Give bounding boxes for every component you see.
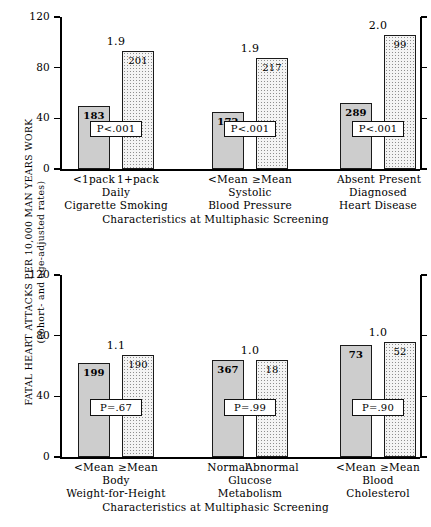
group-label-bottom-0: BodyWeight-for-Height — [41, 474, 191, 499]
y-tick-120 — [54, 274, 60, 275]
ratio-label-bottom-0: 1.1 — [90, 339, 142, 352]
bar-top-1-1 — [256, 58, 288, 169]
bar-count-top-0-1: 201 — [122, 55, 154, 66]
y-tick-0 — [54, 456, 60, 457]
y-tick-label-80: 80 — [24, 329, 50, 341]
p-value-box-bottom-2: P=.90 — [352, 399, 404, 416]
right-spine-line — [420, 17, 422, 170]
group-label-line1: Diagnosed — [303, 186, 431, 199]
x-axis-title-top: Characteristics at Multiphasic Screening — [0, 213, 431, 225]
p-value-box-top-2: P<.001 — [352, 121, 404, 138]
ratio-label-top-1: 1.9 — [224, 42, 276, 55]
y-tick-80 — [54, 335, 60, 336]
bar-count-top-2-1: 99 — [384, 39, 416, 50]
bar-count-bottom-1-1: 18 — [256, 364, 288, 375]
ratio-label-bottom-2: 1.0 — [352, 326, 404, 339]
category-label-top-0-1: 1+pack — [106, 173, 170, 185]
y-tick-label-120: 120 — [24, 268, 50, 280]
y-tick-right-0 — [421, 456, 427, 457]
chart-panel-top: 04080120183<1pack2011+pack1.9P<.001Daily… — [0, 0, 431, 262]
group-label-line2: Cigarette Smoking — [41, 199, 191, 212]
bar-count-top-1-1: 217 — [256, 62, 288, 73]
bar-count-top-0-0: 183 — [78, 110, 110, 121]
category-label-bottom-0-1: ≥Mean — [106, 461, 170, 473]
group-label-line1: Daily — [41, 186, 191, 199]
y-tick-right-0 — [421, 168, 427, 169]
group-label-line2: Heart Disease — [303, 199, 431, 212]
y-tick-right-80 — [421, 335, 427, 336]
y-tick-right-40 — [421, 396, 427, 397]
group-label-line2: Weight-for-Height — [41, 487, 191, 500]
p-value-box-top-0: P<.001 — [90, 121, 142, 138]
category-label-top-1-1: ≥Mean — [240, 173, 304, 185]
y-axis-line — [60, 275, 62, 458]
y-tick-label-0: 0 — [24, 450, 50, 462]
y-tick-120 — [54, 16, 60, 17]
ratio-label-top-2: 2.0 — [352, 19, 404, 32]
y-tick-label-40: 40 — [24, 111, 50, 123]
x-axis-line — [60, 169, 420, 171]
bar-count-bottom-1-0: 367 — [212, 364, 244, 375]
y-tick-80 — [54, 67, 60, 68]
bar-top-2-1 — [384, 35, 416, 169]
category-label-top-2-1: Present — [368, 173, 431, 185]
ratio-label-top-0: 1.9 — [90, 35, 142, 48]
group-label-line2: Cholesterol — [303, 487, 431, 500]
group-label-top-0: DailyCigarette Smoking — [41, 186, 191, 211]
bar-count-bottom-2-1: 52 — [384, 346, 416, 357]
group-label-top-2: DiagnosedHeart Disease — [303, 186, 431, 211]
y-tick-right-120 — [421, 274, 427, 275]
bar-count-bottom-0-0: 199 — [78, 367, 110, 378]
x-axis-line — [60, 457, 420, 459]
category-label-bottom-2-1: ≥Mean — [368, 461, 431, 473]
y-tick-label-40: 40 — [24, 389, 50, 401]
y-tick-label-120: 120 — [24, 10, 50, 22]
p-value-box-top-1: P<.001 — [224, 121, 276, 138]
bar-count-top-2-0: 289 — [340, 107, 372, 118]
y-tick-label-80: 80 — [24, 61, 50, 73]
y-tick-right-40 — [421, 118, 427, 119]
y-tick-40 — [54, 118, 60, 119]
bar-count-bottom-0-1: 190 — [122, 359, 154, 370]
y-tick-right-80 — [421, 67, 427, 68]
bar-top-0-1 — [122, 51, 154, 169]
p-value-box-bottom-1: P=.99 — [224, 399, 276, 416]
group-label-line1: Blood — [303, 474, 431, 487]
p-value-box-bottom-0: P=.67 — [90, 399, 142, 416]
y-axis-line — [60, 17, 62, 170]
group-label-bottom-2: BloodCholesterol — [303, 474, 431, 499]
y-tick-right-120 — [421, 16, 427, 17]
y-tick-label-0: 0 — [24, 162, 50, 174]
bar-count-bottom-2-0: 73 — [340, 349, 372, 360]
y-tick-0 — [54, 168, 60, 169]
category-label-bottom-1-1: Abnormal — [240, 461, 304, 473]
chart-panel-bottom: 04080120199<Mean190≥Mean1.1P=.67BodyWeig… — [0, 262, 431, 527]
ratio-label-bottom-1: 1.0 — [224, 344, 276, 357]
y-tick-40 — [54, 396, 60, 397]
x-axis-title-bottom: Characteristics at Multiphasic Screening — [0, 501, 431, 513]
group-label-line1: Body — [41, 474, 191, 487]
right-spine-line — [420, 275, 422, 458]
